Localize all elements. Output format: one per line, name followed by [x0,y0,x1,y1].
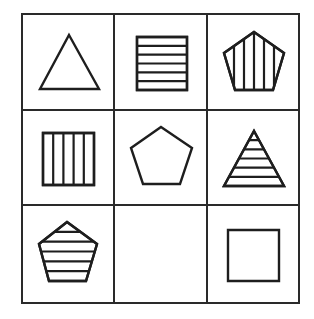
cell-r1-c2[interactable] [114,14,207,110]
cell-r1-c3[interactable] [207,14,299,110]
cell-r2-c2[interactable] [114,110,207,205]
cell-r2-c3[interactable] [207,110,299,205]
matrix-puzzle [0,0,314,319]
square-outline-icon [228,230,279,281]
square-vertical-lines-icon [43,131,94,187]
cell-r2-c1[interactable] [22,110,114,205]
cell-r3-c2[interactable] [114,205,207,303]
square-horizontal-lines-icon [135,37,189,90]
cell-r3-c3[interactable] [207,205,299,303]
cell-r3-c1[interactable] [22,205,114,303]
puzzle-canvas [0,0,314,319]
cell-r1-c1[interactable] [22,14,114,110]
cells-layer [22,14,299,303]
missing-answer-cell[interactable] [114,205,207,303]
